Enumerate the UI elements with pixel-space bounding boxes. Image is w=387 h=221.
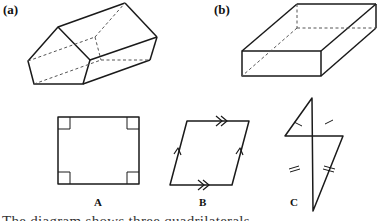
right-angle-mark-icon <box>58 172 70 184</box>
shape-a-label: A <box>94 197 102 208</box>
pentagonal-prism-figure <box>28 3 157 84</box>
figure-canvas <box>0 0 387 221</box>
right-angle-mark-icon <box>58 117 70 129</box>
single-tick-mark-icon <box>325 120 333 124</box>
single-tick-mark-icon <box>294 122 302 126</box>
double-tick-mark-icon <box>289 166 299 169</box>
parallelogram-shape-b <box>170 116 249 190</box>
rectangle-shape-a <box>58 117 139 184</box>
kite-shape-c <box>285 98 343 211</box>
cuboid-figure <box>242 4 376 76</box>
shape-c-label: C <box>290 197 298 208</box>
caption-text: The diagram shows three quadrilaterals <box>2 213 250 221</box>
figure-a-label: (a) <box>3 3 18 16</box>
right-angle-mark-icon <box>127 172 139 184</box>
figure-b-label: (b) <box>214 3 230 16</box>
right-angle-mark-icon <box>127 117 139 129</box>
shape-b-label: B <box>199 197 206 208</box>
